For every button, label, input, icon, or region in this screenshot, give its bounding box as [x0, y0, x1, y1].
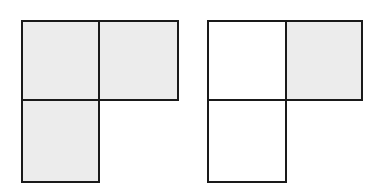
diagram-canvas — [0, 0, 384, 194]
right-l-shape — [208, 21, 362, 182]
left-cell-top-right — [99, 21, 178, 100]
right-cell-top-right — [286, 21, 362, 100]
left-l-shape — [22, 21, 178, 182]
left-cell-bottom-left — [22, 100, 99, 182]
right-cell-bottom-left — [208, 100, 286, 182]
left-cell-top-left — [22, 21, 99, 100]
right-cell-top-left — [208, 21, 286, 100]
